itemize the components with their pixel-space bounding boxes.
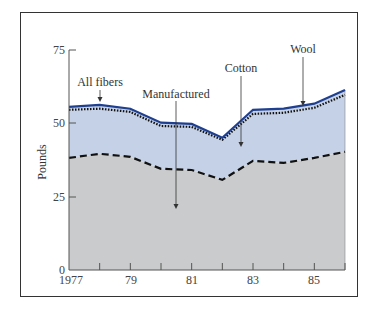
fiber-consumption-chart: 75 50 25 0 1977 79 81 83 85 Pounds All f… [0,0,376,315]
y-tick-25: 25 [53,190,65,204]
y-tick-75: 75 [53,43,65,57]
arrow-head-icon [98,97,103,102]
annotation-manufactured: Manufactured [142,87,209,101]
x-tick-1977: 1977 [59,273,83,287]
plot-areas [69,90,345,270]
y-axis-label: Pounds [35,144,49,180]
annotation-wool: Wool [290,42,316,56]
x-tick-83: 83 [247,273,259,287]
y-tick-50: 50 [53,116,65,130]
x-tick-79: 79 [125,273,137,287]
x-tick-85: 85 [308,273,320,287]
x-tick-81: 81 [186,273,198,287]
annotation-cotton: Cotton [225,61,258,75]
annotation-all-fibers: All fibers [77,75,123,89]
